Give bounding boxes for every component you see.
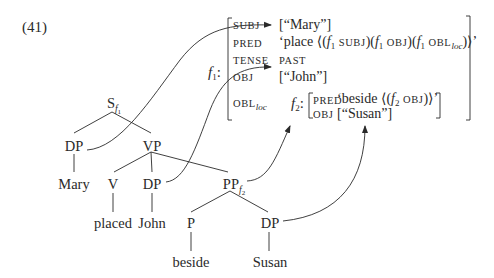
value-pred: ‘place ⟨(f1 SUBJ)(f1 OBJ)(f1 OBLloc)⟩’: [279, 35, 477, 51]
f1-left-bracket: [228, 18, 232, 120]
attr-obj: OBJ: [233, 73, 253, 84]
tree-leaf-beside: beside: [172, 255, 209, 270]
inner-value-obj: [“Susan”]: [337, 107, 392, 121]
tree-node-vp: VP: [143, 139, 162, 154]
tree-leaf-mary: Mary: [58, 177, 89, 192]
attr-subj: SUBJ: [233, 21, 260, 32]
tree-node-dp-subj: DP: [65, 139, 84, 154]
arrow-pp-mapping: [247, 126, 290, 181]
f2-label: f2:: [291, 96, 304, 113]
tree-node-p: P: [187, 216, 195, 231]
branch-vp-v: [114, 152, 151, 172]
tree-node-pp: PPf2: [223, 177, 245, 197]
value-obj: [“John”]: [279, 70, 327, 84]
branch-vp-pp: [151, 152, 228, 172]
tree-node-dp-pobj: DP: [261, 216, 280, 231]
node-label: PP: [223, 176, 239, 192]
f1-right-bracket: [466, 16, 470, 120]
value-subj: [“Mary”]: [279, 18, 331, 32]
branch-vp-dp: [151, 152, 152, 172]
tree-node-s: Sf1: [107, 96, 121, 116]
tree-leaf-placed: placed: [94, 216, 132, 231]
node-subscript: f1: [115, 104, 121, 114]
arrow-obj-mapping: [166, 67, 271, 182]
tree-node-dp-obj: DP: [143, 177, 162, 192]
node-subscript: f2: [239, 185, 245, 195]
attr-obl-loc: OBLloc: [233, 99, 267, 112]
f1-label: f1:: [208, 65, 221, 82]
inner-attr-obj: OBJ: [313, 110, 333, 121]
tree-leaf-susan: Susan: [253, 255, 288, 270]
node-label: S: [107, 95, 115, 111]
arrow-susan-mapping: [283, 126, 365, 221]
tree-node-v: V: [108, 177, 118, 192]
attr-tense: TENSE: [233, 56, 269, 67]
tree-leaf-john: John: [138, 216, 165, 231]
value-tense: PAST: [279, 56, 306, 67]
attr-pred: PRED: [233, 39, 262, 50]
